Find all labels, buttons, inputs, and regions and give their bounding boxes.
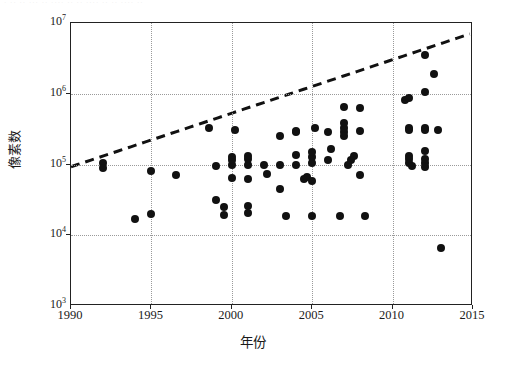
x-tick-mark: [472, 305, 473, 309]
data-point: [324, 156, 332, 164]
y-tick-mark: [66, 93, 70, 94]
data-point: [336, 212, 344, 220]
data-point: [405, 152, 413, 160]
x-tick-label: 2005: [281, 308, 341, 322]
data-point: [311, 124, 319, 132]
data-point: [421, 126, 429, 134]
data-point: [292, 161, 300, 169]
data-point: [147, 210, 155, 218]
x-tick-mark: [150, 305, 151, 309]
data-point: [361, 212, 369, 220]
data-point: [292, 151, 300, 159]
y-axis-label: 像素数: [4, 115, 23, 185]
data-point: [212, 162, 220, 170]
data-point: [276, 161, 284, 169]
data-point: [356, 104, 364, 112]
y-tick-label: 107: [30, 15, 66, 27]
x-tick-label: 1990: [40, 308, 100, 322]
data-point: [421, 147, 429, 155]
data-point: [172, 171, 180, 179]
x-tick-label: 2015: [442, 308, 502, 322]
data-point: [356, 127, 364, 135]
data-point: [244, 202, 252, 210]
data-point: [244, 175, 252, 183]
y-tick-mark: [66, 164, 70, 165]
x-tick-mark: [231, 305, 232, 309]
gridline-vertical: [151, 23, 152, 304]
y-tick-label: 104: [30, 227, 66, 239]
data-point: [405, 94, 413, 102]
x-axis-label: 年份: [0, 331, 505, 351]
data-point: [350, 152, 358, 160]
x-tick-mark: [392, 305, 393, 309]
data-point: [308, 212, 316, 220]
data-point: [244, 152, 252, 160]
data-point: [220, 203, 228, 211]
gridline-vertical: [393, 23, 394, 304]
gridline-horizontal: [71, 235, 471, 236]
plot-area: [70, 22, 472, 305]
data-point: [282, 212, 290, 220]
data-point: [405, 126, 413, 134]
x-tick-mark: [311, 305, 312, 309]
data-point: [356, 171, 364, 179]
data-point: [421, 51, 429, 59]
data-point: [434, 126, 442, 134]
data-point: [260, 161, 268, 169]
data-point: [421, 163, 429, 171]
data-point: [308, 177, 316, 185]
data-point: [205, 124, 213, 132]
x-tick-label: 2000: [201, 308, 261, 322]
x-tick-label: 1995: [120, 308, 180, 322]
y-tick-mark: [66, 234, 70, 235]
data-point: [324, 128, 332, 136]
data-point: [408, 162, 416, 170]
data-point: [340, 132, 348, 140]
data-point: [308, 148, 316, 156]
data-point: [147, 167, 155, 175]
data-point: [340, 103, 348, 111]
data-point: [99, 164, 107, 172]
data-point: [292, 127, 300, 135]
data-point: [421, 88, 429, 96]
data-point: [327, 145, 335, 153]
y-tick-label: 105: [30, 157, 66, 169]
data-point: [276, 132, 284, 140]
y-tick-label: 106: [30, 86, 66, 98]
figure-container: · ·· ·· ··· ·· ···· ·· ·· ···· ·· ·· ···…: [0, 0, 505, 366]
data-point: [231, 126, 239, 134]
data-point: [228, 174, 236, 182]
data-point: [263, 170, 271, 178]
data-point: [276, 185, 284, 193]
data-point: [244, 209, 252, 217]
data-point: [228, 153, 236, 161]
data-point: [430, 70, 438, 78]
x-tick-label: 2010: [362, 308, 422, 322]
data-point: [131, 215, 139, 223]
data-point: [220, 211, 228, 219]
data-point: [437, 244, 445, 252]
data-point: [212, 196, 220, 204]
x-tick-mark: [70, 305, 71, 309]
